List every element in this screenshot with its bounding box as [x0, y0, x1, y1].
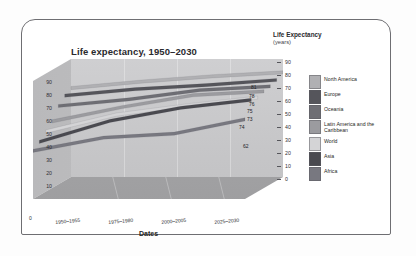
series-end-label-north-america: 81 [251, 84, 257, 90]
series-end-label-oceania: 76 [249, 101, 255, 107]
chart-legend: North America Europe Oceania Latin Ameri… [309, 74, 387, 181]
legend-label: Africa [324, 168, 386, 174]
legend-swatch-icon [309, 137, 321, 151]
series-end-label-latin-america: 75 [247, 108, 253, 114]
series-end-label-world: 73 [247, 116, 253, 122]
legend-swatch-icon [309, 120, 321, 134]
series-end-label-africa: 62 [243, 143, 249, 149]
legend-item-oceania[interactable]: Oceania [309, 104, 387, 118]
chart-stage: Life expectancy, 1950–2030 90 80 70 60 5… [21, 19, 391, 235]
legend-item-latin-america[interactable]: Latin America and the Caribbean [309, 119, 387, 135]
legend-label: Europe [324, 91, 386, 97]
x-axis-title: Dates [139, 230, 158, 237]
legend-swatch-icon [309, 90, 321, 104]
legend-label: World [324, 138, 386, 144]
x-axis-tick: 1975–1980 [108, 217, 133, 225]
x-axis-tick: 2000–2005 [161, 217, 186, 225]
legend-item-asia[interactable]: Asia [309, 151, 387, 165]
legend-item-europe[interactable]: Europe [309, 89, 387, 103]
legend-item-north-america[interactable]: North America [309, 74, 387, 88]
legend-label: Asia [324, 153, 386, 159]
series-end-label-europe: 78 [249, 93, 255, 99]
legend-item-africa[interactable]: Africa [309, 166, 387, 180]
legend-swatch-icon [309, 75, 321, 89]
legend-swatch-icon [309, 152, 321, 166]
legend-swatch-icon [309, 167, 321, 181]
legend-label: Latin America and the Caribbean [324, 121, 386, 133]
legend-swatch-icon [309, 105, 321, 119]
series-end-label-asia: 74 [239, 124, 245, 130]
legend-item-world[interactable]: World [309, 136, 387, 150]
x-axis-tick: 1950–1955 [55, 217, 80, 225]
legend-label: North America [324, 76, 386, 82]
x-axis-tick: 2025–2030 [214, 217, 239, 225]
chart-screenshot: Life expectancy, 1950–2030 90 80 70 60 5… [0, 0, 416, 256]
legend-label: Oceania [324, 106, 386, 112]
